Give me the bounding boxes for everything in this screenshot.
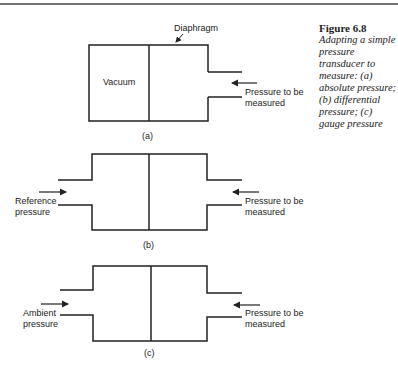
- diagram-c-label: (c): [144, 348, 155, 358]
- ambient-label-line2: pressure: [23, 319, 58, 329]
- diagram-b-differential: [39, 154, 259, 230]
- inlet-tube-right-a: [208, 72, 242, 97]
- pressure-label-a-line1: Pressure to be: [245, 87, 304, 97]
- diaphragm-pointer-arrow-icon: [176, 34, 183, 42]
- ambient-label-line1: Ambient: [23, 308, 57, 318]
- diagram-a-label: (a): [142, 131, 153, 141]
- pressure-label-a-line2: measured: [245, 98, 285, 108]
- pressure-label-c-line1: Pressure to be: [245, 308, 304, 318]
- pressure-label-c-line2: measured: [245, 319, 285, 329]
- vacuum-label: Vacuum: [103, 77, 135, 87]
- reference-label-line2: pressure: [15, 207, 50, 217]
- diaphragm-label: Diaphragm: [174, 23, 218, 33]
- pressure-label-b-line2: measured: [245, 207, 285, 217]
- figure-number: Figure 6.8: [319, 22, 397, 34]
- reference-label-line1: Reference: [15, 196, 57, 206]
- diagram-c-gauge: [41, 266, 260, 341]
- transducer-body-b-top: [58, 154, 242, 180]
- pressure-label-b-line1: Pressure to be: [245, 196, 304, 206]
- figure-caption: Figure 6.8 Adapting a simple pressure tr…: [319, 22, 397, 130]
- diagram-b-label: (b): [143, 240, 154, 250]
- transducer-body-b-bottom: [58, 205, 242, 230]
- figure-caption-text: Adapting a simple pressure transducer to…: [319, 34, 397, 130]
